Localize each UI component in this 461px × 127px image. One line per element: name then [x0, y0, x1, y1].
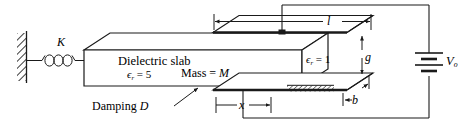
- slab-permittivity-label: ϵr = 5: [127, 68, 151, 81]
- voltage-subscript: o: [454, 60, 458, 69]
- epsilon-subscript-air: r: [310, 59, 313, 66]
- epsilon-value: = 5: [137, 68, 151, 80]
- lower-capacitor-plate: [213, 73, 373, 92]
- upper-capacitor-plate: [213, 16, 373, 33]
- slab-title-label: Dielectric slab: [118, 54, 191, 69]
- fixed-wall: [17, 31, 27, 83]
- displacement-label: x: [239, 98, 244, 113]
- diagram-canvas: [0, 0, 461, 127]
- source-voltage-label: Vo: [446, 54, 458, 69]
- epsilon-subscript: r: [131, 74, 134, 81]
- hatched-pad-on-lower-plate: [287, 86, 334, 92]
- wire-junction-dot: [279, 30, 286, 35]
- damping-text: Damping: [92, 99, 140, 113]
- damping-label: Damping D: [92, 99, 148, 114]
- dielectric-slab-capacitor-figure: K Dielectric slab ϵr = 5 Mass = M ϵr = 1…: [0, 0, 461, 127]
- epsilon-value-air: = 1: [316, 53, 330, 65]
- slab-mass-label: Mass = M: [181, 66, 229, 81]
- damping-value: D: [140, 99, 149, 113]
- spring-constant-label: K: [57, 35, 65, 50]
- dc-voltage-source: [415, 53, 443, 71]
- mass-text: Mass =: [181, 66, 219, 80]
- plate-thickness-label: b: [352, 93, 358, 108]
- mass-value: M: [219, 66, 229, 80]
- gap-label: g: [365, 50, 371, 65]
- coil-spring: [27, 55, 85, 66]
- air-permittivity-label: ϵr = 1: [306, 53, 330, 66]
- leader-damping: [174, 88, 198, 106]
- voltage-symbol: V: [446, 54, 454, 68]
- plate-length-label: l: [327, 14, 330, 29]
